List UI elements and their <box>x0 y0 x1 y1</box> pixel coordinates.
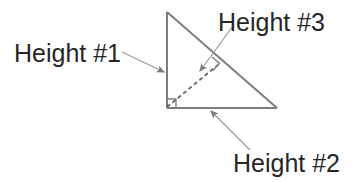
dashed-altitude-line <box>167 64 219 107</box>
right-angle-marker-altitude <box>212 57 219 70</box>
arrow-to-bottom-side <box>211 111 250 150</box>
label-height-2: Height #2 <box>233 149 340 177</box>
geometry-figure: Height #1 Height #3 Height #2 <box>0 0 363 182</box>
figure-canvas: Height #1 Height #3 Height #2 <box>0 0 363 182</box>
label-height-3: Height #3 <box>218 8 325 36</box>
arrow-to-left-side <box>122 52 164 72</box>
label-height-1: Height #1 <box>14 39 121 67</box>
